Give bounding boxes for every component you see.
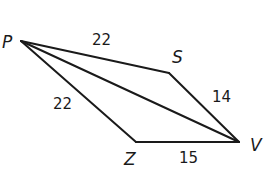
edge-SV [169,73,239,142]
edge-label-PZ: 22 [53,95,72,113]
quadrilateral-diagram: P S V Z 22 14 15 22 [0,0,277,180]
edge-label-PS: 22 [92,31,111,49]
diagonal-PV [21,41,239,142]
vertex-label-S: S [172,47,183,67]
edge-label-ZV: 15 [179,149,198,167]
edge-label-SV: 14 [212,88,231,106]
vertex-label-P: P [2,32,13,52]
edge-PZ [21,41,136,142]
vertex-label-Z: Z [123,149,136,169]
vertex-label-V: V [250,135,263,155]
